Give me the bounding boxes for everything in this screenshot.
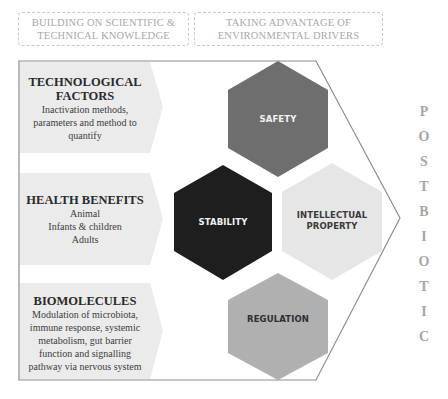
hexagon-label-line: INTELLECTUAL xyxy=(297,210,367,221)
vertical-letter: T xyxy=(419,174,428,199)
hexagon-label-stability: STABILITY xyxy=(174,212,272,232)
vertical-letter: T xyxy=(419,274,428,299)
hexagon-label-safety: SAFETY xyxy=(228,109,328,129)
vertical-letter: S xyxy=(420,149,428,174)
panel-technological-factors: TECHNOLOGICAL FACTORS Inactivation metho… xyxy=(20,64,150,152)
vertical-word-postbiotic: P O S T B I O T I C xyxy=(414,99,434,349)
panel-title: TECHNOLOGICAL xyxy=(20,75,150,89)
hexagon-label-line: PROPERTY xyxy=(307,221,358,232)
panel-line: Animal xyxy=(20,207,150,220)
panel-title: FACTORS xyxy=(20,89,150,103)
hexagon-label-line: STABILITY xyxy=(199,217,248,228)
panel-line: metabolism, gut barrier xyxy=(20,334,150,347)
panel-line: function and signalling xyxy=(20,347,150,360)
panel-line: Infants & children xyxy=(20,220,150,233)
vertical-letter: O xyxy=(419,124,430,149)
vertical-letter: C xyxy=(419,324,429,349)
panel-health-benefits: HEALTH BENEFITS Animal Infants & childre… xyxy=(20,175,150,263)
panel-line: quantify xyxy=(20,129,150,142)
panel-line: immune response, systemic xyxy=(20,321,150,334)
panel-line: pathway via nervous system xyxy=(20,360,150,373)
panel-line: Adults xyxy=(20,233,150,246)
panel-line: Inactivation methods, xyxy=(20,103,150,116)
hexagon-label-regulation: REGULATION xyxy=(228,309,328,329)
hexagon-label-intellectual-property: INTELLECTUAL PROPERTY xyxy=(282,208,382,234)
panel-title: HEALTH BENEFITS xyxy=(20,193,150,207)
panel-title: BIOMOLECULES xyxy=(20,294,150,308)
vertical-letter: O xyxy=(419,249,430,274)
hexagon-label-line: SAFETY xyxy=(260,114,297,125)
panel-biomolecules: BIOMOLECULES Modulation of microbiota, i… xyxy=(20,288,150,378)
panel-line: Modulation of microbiota, xyxy=(20,308,150,321)
vertical-letter: I xyxy=(421,299,426,324)
vertical-letter: P xyxy=(420,99,429,124)
panel-line: parameters and method to xyxy=(20,116,150,129)
vertical-letter: B xyxy=(419,199,428,224)
hexagon-label-line: REGULATION xyxy=(247,314,309,325)
vertical-letter: I xyxy=(421,224,426,249)
